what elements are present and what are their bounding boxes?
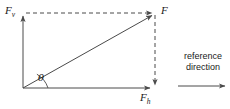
vertical-component-subscript: v: [12, 10, 15, 19]
reference-direction-line1: reference: [176, 51, 230, 62]
force-vector-figure: Fv F Fh θ reference direction: [0, 0, 230, 109]
reference-direction-caption: reference direction: [176, 51, 230, 73]
resultant-force-label: F: [161, 5, 168, 16]
vertical-component-label: Fv: [5, 5, 15, 19]
horizontal-component-subscript: h: [147, 97, 151, 106]
angle-label: θ: [38, 73, 44, 83]
vertical-component-symbol: F: [5, 4, 12, 16]
horizontal-component-symbol: F: [140, 91, 147, 103]
reference-direction-line2: direction: [176, 62, 230, 73]
horizontal-component-label: Fh: [140, 92, 150, 106]
resultant-force-symbol: F: [161, 4, 168, 16]
